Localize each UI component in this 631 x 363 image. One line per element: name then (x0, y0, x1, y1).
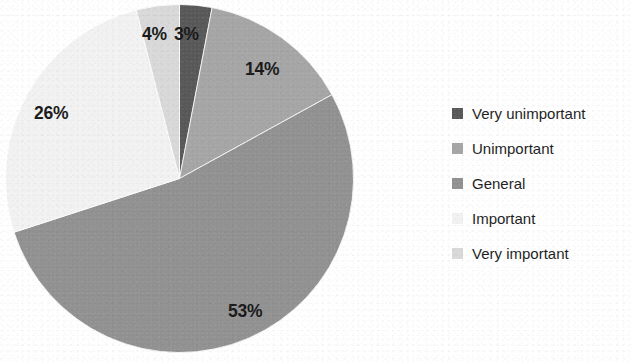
legend-item-label: Important (472, 211, 535, 226)
legend-swatch-icon (452, 248, 463, 259)
chart-legend: Very unimportant Unimportant General Imp… (452, 96, 627, 271)
pie-chart-plot-area: 4% 3% 14% 26% 53% (5, 4, 354, 353)
pie-label-unimportant: 14% (245, 59, 279, 80)
legend-swatch-icon (452, 143, 463, 154)
legend-item-general[interactable]: General (452, 166, 627, 201)
pie-label-very-unimportant: 3% (174, 24, 199, 45)
legend-item-very-unimportant[interactable]: Very unimportant (452, 96, 627, 131)
legend-swatch-icon (452, 108, 463, 119)
legend-item-very-important[interactable]: Very important (452, 236, 627, 271)
legend-item-label: Unimportant (472, 141, 554, 156)
pie-label-general: 53% (228, 301, 262, 322)
legend-swatch-icon (452, 178, 463, 189)
legend-swatch-icon (452, 213, 463, 224)
pie-slice-group (5, 5, 353, 353)
pie-label-very-important: 4% (142, 24, 167, 45)
pie-chart-svg (5, 4, 354, 353)
pie-label-important: 26% (34, 103, 68, 124)
legend-item-label: General (472, 176, 525, 191)
legend-item-unimportant[interactable]: Unimportant (452, 131, 627, 166)
legend-item-label: Very important (472, 246, 569, 261)
pie-chart-figure: 4% 3% 14% 26% 53% Very unimportant Unimp… (0, 0, 631, 363)
legend-item-label: Very unimportant (472, 106, 585, 121)
legend-item-important[interactable]: Important (452, 201, 627, 236)
